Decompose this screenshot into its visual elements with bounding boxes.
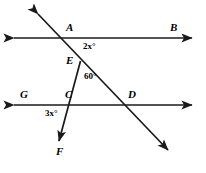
angle-label-2x: 2x° [83, 42, 96, 51]
geometry-figure: A B E G C D F 2x° 60° 3x° [0, 0, 206, 173]
point-label-G: G [20, 89, 28, 100]
point-label-D: D [128, 89, 136, 100]
transversal-line [38, 14, 168, 150]
point-label-F: F [56, 146, 63, 157]
angle-label-3x: 3x° [45, 109, 58, 118]
ray-EF [59, 61, 81, 141]
point-label-B: B [170, 22, 177, 33]
point-label-A: A [66, 22, 73, 33]
point-label-C: C [65, 89, 72, 100]
point-label-E: E [66, 55, 73, 66]
angle-label-60: 60° [84, 72, 97, 81]
